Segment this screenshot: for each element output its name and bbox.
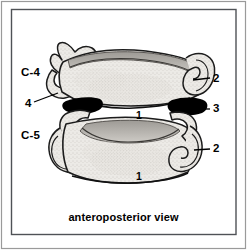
body-label-1-c4: 1	[136, 110, 142, 121]
callout-label-2-upper: 2	[213, 73, 219, 85]
figure-caption: anteroposterior view	[0, 212, 247, 223]
callout-label-2-lower: 2	[213, 143, 219, 155]
body-label-1-c5: 1	[136, 171, 142, 182]
callout-label-4: 4	[25, 98, 31, 110]
level-label-c5: C-5	[21, 130, 40, 142]
level-label-c4: C-4	[21, 67, 40, 79]
anatomy-figure: C-4 C-5 4 2 3 2 1 1 anteroposterior view	[0, 0, 247, 250]
callout-label-3: 3	[213, 103, 219, 115]
